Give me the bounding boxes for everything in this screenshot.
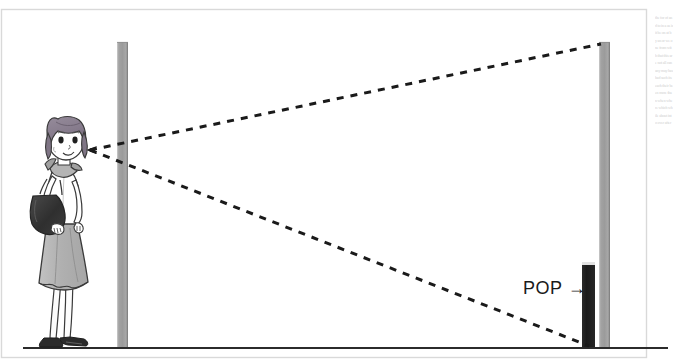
woman-illustration [30,117,88,348]
woman-left-shoe [39,338,62,347]
right-pillar-body [599,42,610,348]
sightlines-group [86,44,601,346]
page-margin-text: the for of and to in a as is it be on at… [655,14,673,344]
right-pillar [599,42,610,348]
pop-label: POP → [523,278,586,298]
woman-right-shoe [60,337,88,346]
page-frame [2,10,647,358]
pop-display-top-cap [582,262,595,265]
woman-right-hand [74,223,83,233]
woman-head [46,117,87,161]
woman-right-eye [72,137,77,144]
left-pillar-body [117,42,128,348]
woman-shoes [39,337,87,347]
pop-display-body [582,264,595,348]
diagram-svg: POP → [0,0,674,360]
left-pillar [117,42,128,348]
woman-left-eye [58,137,63,144]
lower-sightline [90,150,589,346]
upper-sightline [90,44,601,150]
figure-canvas: POP → [0,0,674,360]
pop-display-bar [582,262,595,348]
pop-label-text: POP → [523,278,586,298]
frame-border [2,10,647,358]
